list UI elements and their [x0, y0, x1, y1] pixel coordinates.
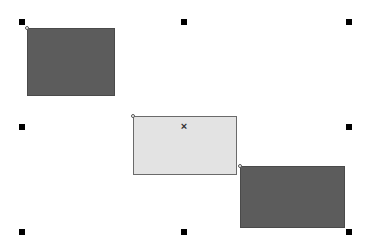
center-x-icon: × [179, 121, 189, 131]
resize-handle-bottom-center[interactable] [181, 229, 187, 235]
anchor-point[interactable] [131, 114, 135, 118]
resize-handle-middle-left[interactable] [19, 124, 25, 130]
resize-handle-bottom-right[interactable] [346, 229, 352, 235]
dark-rectangle-top-left[interactable] [27, 28, 115, 96]
drawing-canvas[interactable]: × [0, 0, 368, 249]
resize-handle-bottom-left[interactable] [19, 229, 25, 235]
resize-handle-top-right[interactable] [346, 19, 352, 25]
anchor-point[interactable] [25, 26, 29, 30]
resize-handle-top-left[interactable] [19, 19, 25, 25]
anchor-point[interactable] [238, 164, 242, 168]
dark-rectangle-bottom-right[interactable] [240, 166, 345, 228]
resize-handle-top-center[interactable] [181, 19, 187, 25]
resize-handle-middle-right[interactable] [346, 124, 352, 130]
